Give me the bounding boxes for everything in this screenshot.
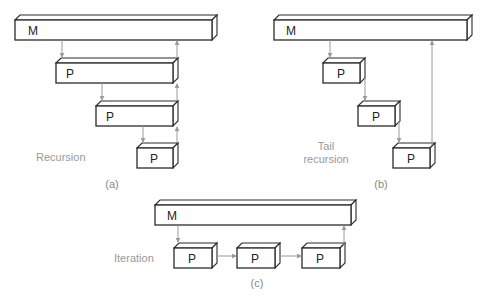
procedure-box-p: P (56, 58, 178, 83)
caption-recursion: Recursion (36, 151, 86, 163)
box-label: P (251, 252, 259, 266)
box-label: P (66, 67, 74, 81)
box-label: P (150, 152, 158, 166)
panel-label-b: (b) (374, 178, 387, 190)
panel-label-a: (a) (105, 178, 118, 190)
main-box-m: M (274, 15, 472, 40)
box-label: M (167, 209, 177, 223)
box-label: P (407, 152, 415, 166)
main-box-m: M (15, 15, 217, 40)
box-label: M (28, 24, 38, 38)
procedure-box-p: P (96, 101, 178, 126)
procedure-box-p: P (323, 58, 365, 83)
main-box-m: M (155, 200, 356, 225)
diagram-canvas: M P P P Recursion (0, 0, 489, 303)
procedure-box-p: P (302, 243, 345, 268)
panel-label-c: (c) (251, 277, 264, 289)
box-label: P (337, 67, 345, 81)
panel-iteration: M P P P Iteration (c) (114, 200, 356, 289)
procedure-box-p: P (237, 243, 280, 268)
caption-recursion: recursion (303, 153, 348, 165)
caption-tail: Tail (318, 140, 335, 152)
procedure-box-p: P (393, 143, 435, 168)
box-label: P (188, 252, 196, 266)
box-label: P (372, 110, 380, 124)
procedure-box-p: P (137, 143, 178, 168)
box-label: P (316, 252, 324, 266)
box-label: P (106, 110, 114, 124)
box-label: M (286, 24, 296, 38)
procedure-box-p: P (174, 243, 217, 268)
caption-iteration: Iteration (114, 252, 154, 264)
panel-recursion: M P P P Recursion (15, 15, 217, 190)
panel-tail-recursion: M P P P Tail recursion (274, 15, 472, 190)
procedure-box-p: P (358, 101, 400, 126)
